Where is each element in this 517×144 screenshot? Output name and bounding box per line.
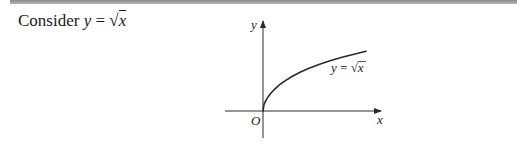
sqrt-graph: y x O y = √x: [0, 0, 517, 144]
origin-label: O: [251, 113, 261, 128]
curve-label-eq: =: [337, 60, 351, 75]
x-axis-label: x: [376, 112, 383, 127]
y-axis-label: y: [249, 17, 257, 32]
curve-label: y = √x: [329, 60, 364, 75]
curve-label-radicand: x: [357, 60, 364, 75]
